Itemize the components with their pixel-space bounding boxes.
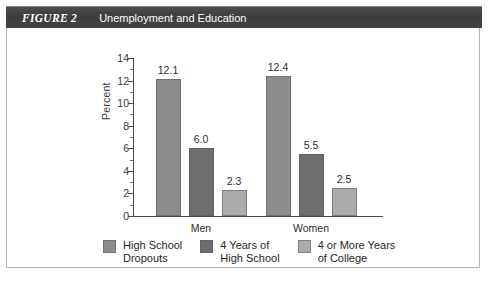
- y-axis-tickmark: [128, 216, 133, 217]
- y-axis-minor-tickmark: [130, 114, 133, 115]
- legend-label: 4 or More Years of College: [318, 239, 396, 265]
- y-axis-tickmark: [128, 81, 133, 82]
- chart-plot-area: Percent 02468101214 12.16.02.312.45.52.5…: [7, 28, 481, 268]
- y-axis-tickmark: [128, 126, 133, 127]
- bar: [299, 154, 324, 216]
- y-axis-tickmark: [128, 58, 133, 59]
- bar: [332, 188, 357, 216]
- legend-item: High School Dropouts: [103, 239, 182, 265]
- legend-swatch: [298, 240, 311, 253]
- legend-item: 4 Years of High School: [200, 239, 279, 265]
- bars-layer: 12.16.02.312.45.52.5: [133, 58, 383, 216]
- y-axis-tickmark: [128, 148, 133, 149]
- legend-label: 4 Years of High School: [220, 239, 279, 265]
- bar: [189, 148, 214, 216]
- bar: [266, 76, 291, 216]
- bar: [222, 190, 247, 216]
- legend-label: High School Dropouts: [123, 239, 182, 265]
- bar-value-label: 6.0: [194, 133, 209, 145]
- legend-swatch: [200, 240, 213, 253]
- legend-swatch: [103, 240, 116, 253]
- chart-legend: High School Dropouts4 Years of High Scho…: [103, 239, 395, 265]
- y-axis-minor-tickmark: [130, 92, 133, 93]
- bar-value-label: 12.1: [158, 64, 178, 76]
- y-axis-minor-tickmark: [130, 160, 133, 161]
- bar-value-label: 12.4: [268, 61, 288, 73]
- figure-container: FIGURE 2 Unemployment and Education Perc…: [6, 6, 480, 268]
- y-axis-minor-tickmark: [130, 69, 133, 70]
- y-axis-minor-tickmark: [130, 137, 133, 138]
- bar-value-label: 2.5: [337, 173, 352, 185]
- y-axis-tickmark: [128, 193, 133, 194]
- y-axis-tickmark: [128, 103, 133, 104]
- y-axis-minor-tickmark: [130, 182, 133, 183]
- bar-value-label: 2.3: [227, 175, 242, 187]
- y-axis-tickmark: [128, 171, 133, 172]
- x-axis-group-label: Men: [191, 222, 211, 234]
- x-axis-group-label: Women: [293, 222, 329, 234]
- figure-number-label: FIGURE 2: [22, 12, 77, 24]
- legend-item: 4 or More Years of College: [298, 239, 396, 265]
- figure-title: Unemployment and Education: [99, 12, 246, 24]
- y-axis-minor-tickmark: [130, 205, 133, 206]
- figure-header-bar: FIGURE 2 Unemployment and Education: [6, 6, 482, 28]
- y-axis-tick-labels: 02468101214: [111, 28, 133, 216]
- x-axis-baseline: [133, 216, 383, 217]
- bar: [156, 79, 181, 216]
- bar-value-label: 5.5: [304, 139, 319, 151]
